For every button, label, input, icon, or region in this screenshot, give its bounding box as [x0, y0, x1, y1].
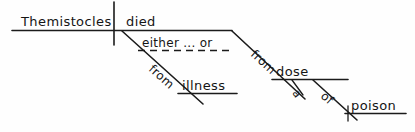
label-prep-right: from [248, 47, 279, 77]
label-object-right: dose [276, 64, 309, 79]
label-article: a [290, 87, 305, 100]
label-object-left: illness [182, 78, 225, 93]
label-prep-of: of [318, 89, 337, 108]
label-subject: Themistocles [20, 14, 112, 29]
label-verb: died [126, 14, 156, 29]
label-object-of: poison [351, 98, 396, 113]
label-correlative: either ... or [142, 36, 213, 50]
diagram-canvas: Themistocles died either ... or from ill… [0, 0, 415, 132]
sentence-diagram: Themistocles died either ... or from ill… [0, 0, 415, 132]
label-prep-left: from [146, 62, 177, 92]
